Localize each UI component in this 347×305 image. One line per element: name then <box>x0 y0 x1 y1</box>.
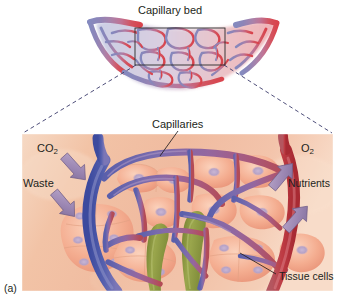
co2-label-text: CO <box>37 142 54 154</box>
o2-label: O2 <box>301 143 314 156</box>
waste-label: Waste <box>23 178 54 189</box>
tissue-cells-label: Tissue cells <box>279 271 333 282</box>
capillary-bed-title: Capillary bed <box>138 5 202 16</box>
nutrients-label: Nutrients <box>288 178 330 189</box>
co2-subscript: 2 <box>54 147 58 156</box>
o2-subscript: 2 <box>310 147 314 156</box>
capillaries-label: Capillaries <box>152 119 203 130</box>
o2-label-text: O <box>301 142 310 154</box>
co2-label: CO2 <box>37 143 58 156</box>
capillary-bed-overview <box>90 20 277 90</box>
figure-panel-letter: (a) <box>4 283 17 294</box>
capillary-bed-figure: Capillary bed Capillaries CO2 Waste O2 N… <box>0 0 347 305</box>
